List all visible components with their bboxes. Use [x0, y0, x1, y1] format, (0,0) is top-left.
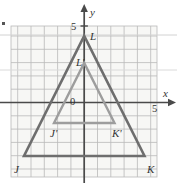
point-label-L: L — [90, 31, 96, 42]
y-tick-label-5: 5 — [71, 22, 76, 33]
y-axis-arrowhead — [81, 4, 88, 12]
x-axis-arrowhead — [168, 99, 176, 106]
x-tick-label-5: 5 — [152, 104, 157, 115]
point-label-J: J — [14, 164, 19, 175]
point-label-J-prime: J' — [50, 128, 57, 139]
origin-label: 0 — [70, 97, 75, 108]
figure-canvas — [0, 0, 177, 183]
point-label-L-prime: L' — [76, 57, 84, 68]
axis-label-x: x — [163, 88, 168, 99]
point-label-K: K — [147, 164, 154, 175]
coordinate-plane-figure: L L' J' K' J K y x 5 5 0 — [0, 0, 177, 183]
axis-label-y: y — [90, 7, 95, 18]
point-label-K-prime: K' — [112, 128, 122, 139]
